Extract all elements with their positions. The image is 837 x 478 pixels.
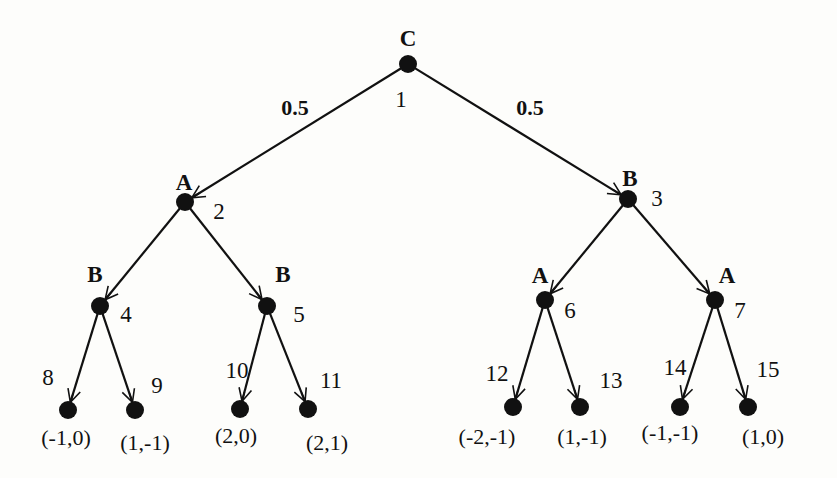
decision-node-2 (176, 193, 194, 211)
payoff-leaf-8: (-1,0) (41, 425, 90, 450)
edge-4-8 (70, 314, 97, 403)
node-number-1: 1 (395, 87, 407, 112)
edge-6-12 (515, 308, 542, 400)
payoff-leaf-10: (2,0) (215, 423, 257, 448)
payoff-leaf-12: (-2,-1) (459, 424, 516, 449)
node-number-14: 14 (664, 355, 688, 380)
edge-3-7 (633, 205, 710, 294)
player-label-node-3: B (622, 166, 637, 191)
leaf-node-13 (571, 398, 589, 416)
node-number-13: 13 (600, 368, 623, 393)
player-label-node-1: C (400, 26, 417, 51)
player-label-node-6: A (532, 263, 549, 288)
payoff-leaf-11: (2,1) (306, 430, 348, 455)
node-number-4: 4 (120, 302, 132, 327)
edge-1-3 (415, 68, 621, 195)
node-number-9: 9 (151, 373, 163, 398)
nodes (59, 55, 757, 419)
edge-2-4 (105, 208, 180, 300)
player-label-node-5: B (275, 262, 290, 287)
player-label-node-2: A (176, 170, 193, 195)
edges (70, 68, 745, 402)
probability-left: 0.5 (281, 95, 309, 120)
player-label-node-4: B (87, 262, 102, 287)
node-number-8: 8 (42, 365, 54, 390)
probability-right: 0.5 (516, 95, 544, 120)
node-number-2: 2 (213, 199, 225, 224)
payoff-leaf-14: (-1,-1) (642, 420, 699, 445)
edge-7-14 (682, 308, 712, 400)
edge-3-6 (550, 205, 623, 294)
player-label-node-7: A (719, 263, 736, 288)
leaf-node-10 (231, 400, 249, 418)
decision-node-7 (706, 291, 724, 309)
node-number-15: 15 (757, 357, 780, 382)
leaf-node-14 (671, 398, 689, 416)
node-number-6: 6 (564, 298, 576, 323)
payoff-leaf-13: (1,-1) (557, 424, 606, 449)
node-number-11: 11 (320, 368, 342, 393)
edge-2-5 (190, 208, 262, 299)
node-number-3: 3 (651, 186, 663, 211)
decision-node-1 (399, 55, 417, 73)
decision-node-3 (619, 190, 637, 208)
node-number-10: 10 (226, 358, 249, 383)
node-number-5: 5 (293, 302, 305, 327)
node-number-12: 12 (486, 361, 509, 386)
leaf-node-15 (739, 398, 757, 416)
edge-1-2 (192, 68, 401, 198)
decision-node-4 (91, 297, 109, 315)
leaf-node-12 (504, 398, 522, 416)
leaf-node-8 (59, 401, 77, 419)
leaf-node-11 (299, 400, 317, 418)
decision-node-5 (258, 297, 276, 315)
decision-node-6 (536, 291, 554, 309)
game-tree: C A B B B A A 1 2 3 4 5 6 7 8 9 10 11 12… (0, 0, 837, 478)
node-number-7: 7 (734, 298, 746, 323)
payoff-leaf-9: (1,-1) (120, 430, 169, 455)
leaf-node-9 (126, 401, 144, 419)
payoff-leaf-15: (1,0) (742, 424, 784, 449)
